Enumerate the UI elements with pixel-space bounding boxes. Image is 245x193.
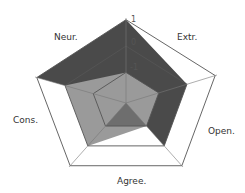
axis-label-open: Open. bbox=[208, 126, 235, 136]
axis-label-extr: Extr. bbox=[177, 32, 197, 42]
axis-label-cons: Cons. bbox=[13, 115, 38, 125]
radar-chart: Neur. Extr. Open. Agree. Cons. 1 0 -1 bbox=[0, 0, 245, 193]
tick-label-0: 0 bbox=[131, 38, 136, 47]
axis-label-neur: Neur. bbox=[54, 32, 78, 42]
axis-label-agree: Agree. bbox=[117, 176, 146, 186]
tick-label-minus-1: -1 bbox=[130, 63, 138, 72]
tick-label-1: 1 bbox=[131, 15, 136, 24]
